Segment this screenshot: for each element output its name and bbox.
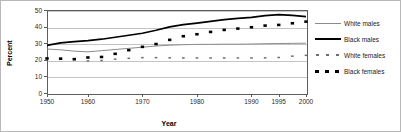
x-tick-mark <box>142 94 143 97</box>
series-dash <box>236 27 239 30</box>
series-dash <box>209 31 212 34</box>
series-dash <box>73 58 76 61</box>
series-dash <box>250 57 253 59</box>
series-dash <box>155 57 158 59</box>
series-dash <box>182 57 185 59</box>
series-dash <box>237 57 240 59</box>
series-white-males <box>47 43 306 52</box>
y-tick-label: 50 <box>20 7 42 14</box>
series-dash <box>154 43 157 46</box>
series-dash <box>141 46 144 49</box>
series-dash <box>277 57 280 59</box>
series-dash <box>168 57 171 59</box>
x-tick-mark <box>306 94 307 97</box>
series-dash <box>168 39 171 42</box>
series-dash <box>305 55 308 57</box>
y-tick-label: 30 <box>20 40 42 47</box>
x-tick-mark <box>197 94 198 97</box>
series-dash <box>127 58 130 60</box>
legend-item-white-males[interactable]: White males <box>314 15 400 31</box>
x-tick-label: 1995 <box>264 98 294 105</box>
series-dash <box>223 57 226 59</box>
series-dash <box>291 55 294 57</box>
x-tick-mark <box>47 94 48 97</box>
series-dash <box>182 35 185 38</box>
series-dash <box>86 56 89 59</box>
series-dash <box>264 57 267 59</box>
data-series <box>47 10 307 94</box>
legend-label: White females <box>342 52 385 59</box>
y-tick-label: 0 <box>20 90 42 97</box>
legend-swatch-thick-dash-icon <box>314 66 342 76</box>
series-dash <box>100 60 103 62</box>
x-tick-label: 1970 <box>127 98 157 105</box>
series-dash <box>114 58 117 60</box>
series-white-females <box>46 55 308 62</box>
series-dash <box>291 22 294 25</box>
series-dash <box>196 57 199 59</box>
chart-legend: White males Black males White females Bl… <box>314 15 400 79</box>
legend-swatch-thick-line-icon <box>314 34 342 44</box>
series-dash <box>45 57 48 60</box>
legend-item-black-females[interactable]: Black females <box>314 63 400 79</box>
x-tick-label: 1950 <box>32 98 62 105</box>
y-tick-label: 20 <box>20 56 42 63</box>
series-dash <box>250 26 253 29</box>
series-dash <box>304 20 307 23</box>
x-tick-label: 1980 <box>182 98 212 105</box>
x-tick-label: 1990 <box>236 98 266 105</box>
series-dash <box>141 57 144 59</box>
series-dash <box>127 49 130 52</box>
series-dash <box>223 29 226 32</box>
legend-label: White males <box>342 20 380 27</box>
legend-item-white-females[interactable]: White females <box>314 47 400 63</box>
series-dash <box>59 57 62 60</box>
series-dash <box>263 24 266 27</box>
series-dash <box>113 53 116 56</box>
legend-swatch-small-dash-icon <box>314 50 342 60</box>
x-tick-mark <box>279 94 280 97</box>
series-line <box>47 15 306 46</box>
legend-swatch-thin-line-icon <box>314 18 342 28</box>
y-tick-label: 10 <box>20 73 42 80</box>
y-axis-title: Percent <box>3 29 15 77</box>
series-black-males <box>47 15 306 46</box>
series-dash <box>195 33 198 36</box>
x-axis-title: Year <box>31 120 307 127</box>
legend-label: Black females <box>342 68 384 75</box>
series-dash <box>87 60 90 62</box>
series-dash <box>277 24 280 27</box>
legend-item-black-males[interactable]: Black males <box>314 31 400 47</box>
series-dash <box>100 56 103 59</box>
x-tick-mark <box>88 94 89 97</box>
legend-label: Black males <box>342 36 379 43</box>
chart-figure: Percent 01020304050 19501960197019801990… <box>0 0 401 132</box>
series-line <box>47 43 306 52</box>
x-tick-mark <box>251 94 252 97</box>
series-dash <box>209 57 212 59</box>
x-tick-label: 1960 <box>73 98 103 105</box>
y-tick-label: 40 <box>20 23 42 30</box>
x-tick-label: 2000 <box>291 98 321 105</box>
